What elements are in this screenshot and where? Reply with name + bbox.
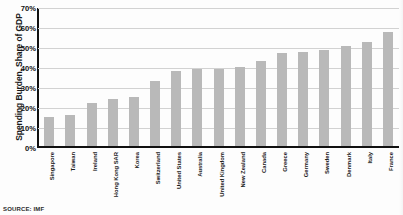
bar-slot xyxy=(123,8,144,146)
x-axis-tick-label: Germany xyxy=(303,152,309,177)
bar[interactable] xyxy=(277,53,287,146)
y-axis-tick-label: 40% xyxy=(2,64,36,73)
bar[interactable] xyxy=(298,52,308,147)
x-axis-tick-label: Greece xyxy=(282,152,288,172)
x-axis-tick-label: Sweden xyxy=(324,152,330,174)
x-label-slot: Germany xyxy=(293,150,314,200)
x-label-slot: Korea xyxy=(123,150,144,200)
page-edge-shadow xyxy=(399,0,403,215)
x-label-slot: Greece xyxy=(271,150,292,200)
y-axis-tick-label: 20% xyxy=(2,104,36,113)
x-label-slot: Canada xyxy=(250,150,271,200)
chart-figure: Spending Burden, Share of GDP 70%60%50%4… xyxy=(0,0,403,215)
bar[interactable] xyxy=(65,115,75,147)
bar-slot xyxy=(335,8,356,146)
y-axis-tick-label: 70% xyxy=(2,4,36,13)
x-axis-tick-label: France xyxy=(388,152,394,171)
bar[interactable] xyxy=(44,117,54,147)
x-label-slot: Sweden xyxy=(314,150,335,200)
x-axis-tick-label: Australia xyxy=(197,152,203,177)
x-axis-labels: SingaporeTaiwanIrelandHong Kong SARKorea… xyxy=(39,150,399,200)
x-axis-tick-label: Hong Kong SAR xyxy=(113,152,119,197)
x-label-slot: France xyxy=(377,150,398,200)
bar-slot xyxy=(144,8,165,146)
x-axis-tick-label: United States xyxy=(176,152,182,189)
x-axis-tick-label: New Zealand xyxy=(240,152,246,187)
y-axis-tick-label: 10% xyxy=(2,124,36,133)
bar-slot xyxy=(356,8,377,146)
x-axis-tick-label: Singapore xyxy=(49,152,55,180)
plot-area xyxy=(37,8,399,148)
bar-slot xyxy=(229,8,250,146)
x-axis-tick-label: Canada xyxy=(261,152,267,173)
bar[interactable] xyxy=(235,67,245,146)
bar-slot xyxy=(102,8,123,146)
x-axis-tick-label: Denmark xyxy=(346,152,352,177)
x-label-slot: Italy xyxy=(356,150,377,200)
bar-slot xyxy=(81,8,102,146)
bar[interactable] xyxy=(341,46,351,147)
x-label-slot: United States xyxy=(166,150,187,200)
bar[interactable] xyxy=(108,99,118,146)
y-axis-tick-label: 30% xyxy=(2,84,36,93)
y-axis-ticks: 70%60%50%40%30%20%10%0% xyxy=(0,8,36,148)
y-axis-tick-label: 60% xyxy=(2,24,36,33)
y-axis-tick-label: 0% xyxy=(2,144,36,153)
bar-slot xyxy=(187,8,208,146)
x-label-slot: Ireland xyxy=(81,150,102,200)
x-label-slot: Denmark xyxy=(335,150,356,200)
bar-slot xyxy=(166,8,187,146)
source-note: SOURCE: IMF xyxy=(3,206,44,212)
x-axis-tick-label: Italy xyxy=(367,152,373,164)
x-label-slot: Hong Kong SAR xyxy=(102,150,123,200)
x-axis-tick-label: Taiwan xyxy=(70,152,76,171)
bar[interactable] xyxy=(150,81,160,146)
bar-slot xyxy=(293,8,314,146)
x-axis-tick-label: United Kingdom xyxy=(219,152,225,197)
x-label-slot: Taiwan xyxy=(60,150,81,200)
bar-slot xyxy=(314,8,335,146)
bar[interactable] xyxy=(192,69,202,146)
x-label-slot: New Zealand xyxy=(229,150,250,200)
x-axis-tick-label: Korea xyxy=(134,152,140,168)
bar[interactable] xyxy=(171,71,181,146)
x-axis-tick-label: Ireland xyxy=(92,152,98,171)
y-axis-tick-label: 50% xyxy=(2,44,36,53)
bar[interactable] xyxy=(129,97,139,146)
x-label-slot: United Kingdom xyxy=(208,150,229,200)
x-label-slot: Singapore xyxy=(39,150,60,200)
bar-slot xyxy=(208,8,229,146)
bar[interactable] xyxy=(256,61,266,146)
bar-slot xyxy=(271,8,292,146)
bar-slot xyxy=(377,8,398,146)
bar-slot xyxy=(250,8,271,146)
x-label-slot: Switzerland xyxy=(144,150,165,200)
x-axis-line xyxy=(37,146,399,148)
bar[interactable] xyxy=(319,50,329,147)
bar[interactable] xyxy=(383,32,393,147)
bar-slot xyxy=(39,8,60,146)
bar[interactable] xyxy=(362,42,372,147)
bar[interactable] xyxy=(214,69,224,146)
bar[interactable] xyxy=(87,103,97,146)
x-label-slot: Australia xyxy=(187,150,208,200)
bar-series xyxy=(39,8,399,146)
x-axis-tick-label: Switzerland xyxy=(155,152,161,184)
bar-slot xyxy=(60,8,81,146)
